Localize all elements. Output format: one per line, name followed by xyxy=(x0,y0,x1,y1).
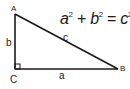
vertex-label-b: B xyxy=(120,65,125,73)
formula-exp-a: 2 xyxy=(69,10,73,19)
side-label-a: a xyxy=(59,71,65,81)
vertex-label-c: C xyxy=(10,75,17,85)
formula-b: b xyxy=(90,10,99,27)
formula-equals: = xyxy=(107,10,116,27)
formula-c: c xyxy=(120,10,128,27)
pythagorean-formula: a2 + b2 = c2 xyxy=(60,10,130,28)
side-label-c: c xyxy=(63,33,68,43)
formula-exp-b: 2 xyxy=(99,10,103,19)
formula-a: a xyxy=(60,10,69,27)
formula-plus: + xyxy=(77,10,86,27)
vertex-label-a: A xyxy=(11,5,16,13)
formula-exp-c: 2 xyxy=(128,10,130,19)
side-label-b: b xyxy=(6,38,12,48)
